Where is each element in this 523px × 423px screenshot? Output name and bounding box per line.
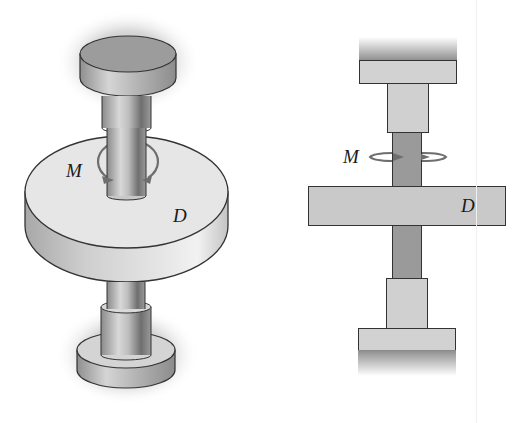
disk-label-right: D xyxy=(461,196,475,215)
moment-arrow-side xyxy=(0,0,523,423)
moment-label-right: M xyxy=(343,147,359,166)
page-edge-line xyxy=(476,0,477,423)
side-view: M D xyxy=(0,0,523,423)
torsion-pendulum-figure: M D M D xyxy=(0,0,523,423)
